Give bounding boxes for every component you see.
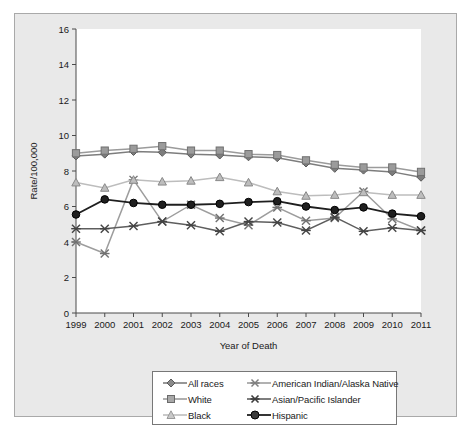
x-tick-label: 2011: [411, 319, 431, 330]
chart-figure: 0246810121416199920002001200220032004200…: [0, 0, 474, 433]
legend-label-white: White: [188, 394, 212, 405]
data-point-circle: [388, 210, 396, 218]
x-tick-label: 2005: [238, 319, 259, 330]
x-tick-label: 2002: [152, 319, 173, 330]
x-axis-title: Year of Death: [220, 340, 278, 351]
legend-column-left: All races White: [153, 375, 242, 424]
legend-label-all-races: All races: [188, 378, 224, 389]
data-point-circle: [72, 211, 80, 219]
y-tick-label: 10: [58, 130, 69, 141]
x-tick-label: 2000: [94, 319, 115, 330]
triangle-marker-icon: [162, 408, 188, 422]
data-point-circle: [360, 204, 368, 212]
data-point-circle: [101, 196, 109, 204]
data-point-square: [130, 145, 137, 152]
x-tick-label: 2004: [209, 319, 230, 330]
data-point-square: [216, 147, 223, 154]
chart-outer-frame: 0246810121416199920002001200220032004200…: [14, 13, 457, 417]
data-point-circle: [245, 198, 253, 206]
data-point-circle: [158, 201, 166, 209]
data-point-circle: [302, 203, 310, 211]
x-tick-label: 2003: [180, 319, 201, 330]
y-tick-label: 6: [64, 201, 69, 212]
data-point-circle: [331, 206, 339, 214]
data-point-square: [159, 143, 166, 150]
x-tick-label: 1999: [65, 319, 86, 330]
data-point-circle: [417, 212, 425, 220]
y-tick-label: 16: [58, 24, 69, 35]
data-point-square: [274, 151, 281, 158]
star-marker-icon: [246, 376, 272, 390]
data-point-square: [72, 150, 79, 157]
y-tick-label: 12: [58, 95, 69, 106]
legend-item-all-races[interactable]: All races: [162, 375, 242, 391]
y-tick-label: 8: [64, 166, 69, 177]
star-marker-icon: [246, 392, 272, 406]
data-point-square: [331, 161, 338, 168]
y-tick-label: 0: [64, 308, 69, 319]
x-tick-label: 2008: [324, 319, 345, 330]
x-tick-label: 2001: [123, 319, 144, 330]
data-point-circle: [273, 197, 281, 205]
legend-item-asian-pacific-islander[interactable]: Asian/Pacific Islander: [246, 391, 396, 407]
square-marker-icon: [162, 392, 188, 406]
data-point-square: [417, 168, 424, 175]
x-tick-label: 2010: [382, 319, 403, 330]
data-point-circle: [216, 200, 224, 208]
data-point-square: [302, 157, 309, 164]
legend-label-hispanic: Hispanic: [272, 410, 308, 421]
x-tick-label: 2006: [267, 319, 288, 330]
data-point-square: [187, 147, 194, 154]
legend-item-hispanic[interactable]: Hispanic: [246, 407, 396, 423]
diamond-marker-icon: [162, 376, 188, 390]
circle-marker-icon: [246, 408, 272, 422]
legend-item-white[interactable]: White: [162, 391, 242, 407]
x-tick-label: 2007: [295, 319, 316, 330]
legend-item-black[interactable]: Black: [162, 407, 242, 423]
y-tick-label: 2: [64, 272, 69, 283]
y-tick-label: 14: [58, 59, 69, 70]
legend-label-asian-pacific-islander: Asian/Pacific Islander: [272, 394, 361, 405]
legend-column-right: American Indian/Alaska Native: [242, 375, 396, 424]
legend-item-american-indian-alaska-native[interactable]: American Indian/Alaska Native: [246, 375, 396, 391]
data-point-circle: [130, 199, 138, 207]
legend-label-black: Black: [188, 410, 211, 421]
data-point-square: [245, 151, 252, 158]
x-tick-label: 2009: [353, 319, 374, 330]
data-point-square: [101, 147, 108, 154]
data-point-square: [389, 164, 396, 171]
line-chart-plot: 0246810121416199920002001200220032004200…: [15, 14, 456, 416]
y-tick-label: 4: [64, 237, 69, 248]
data-point-circle: [187, 201, 195, 209]
chart-legend: All races White: [152, 371, 397, 425]
legend-label-american-indian-alaska-native: American Indian/Alaska Native: [272, 378, 398, 389]
data-point-square: [360, 164, 367, 171]
y-axis-title: Rate/100,000: [28, 142, 39, 199]
